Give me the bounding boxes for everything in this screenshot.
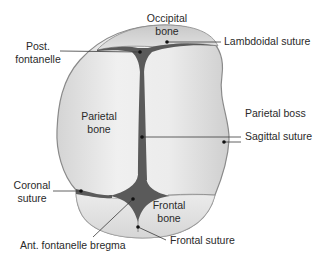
frontal-suture-label: Frontal suture — [170, 234, 235, 247]
parietal-bone-label: Parietal bone — [76, 110, 122, 136]
lambdoidal-suture-label: Lambdoidal suture — [224, 35, 310, 48]
frontal-bone-label-line1: Frontal — [148, 199, 190, 212]
parietal-boss-label: Parietal boss — [245, 107, 306, 120]
occipital-bone-label-line2: bone — [144, 25, 190, 38]
parietal-bone-label-line2: bone — [76, 123, 122, 136]
frontal-bone-label: Frontal bone — [148, 199, 190, 225]
ant-fontanelle-label: Ant. fontanelle bregma — [20, 239, 126, 252]
dot-lambdoidal — [165, 40, 169, 44]
dot-parietal-boss — [222, 140, 226, 144]
dot-coronal — [79, 189, 83, 193]
dot-sagittal — [140, 135, 144, 139]
dot-post-fontanelle — [138, 50, 142, 54]
dot-frontal-suture — [136, 225, 140, 229]
frontal-bone-label-line2: bone — [148, 212, 190, 225]
coronal-suture-label: Coronal suture — [10, 179, 54, 205]
coronal-suture-label-line2: suture — [10, 192, 54, 205]
post-fontanelle-label: Post. fontanelle — [14, 40, 62, 66]
occipital-bone-label: Occipital bone — [144, 12, 190, 38]
coronal-suture-label-line1: Coronal — [10, 179, 54, 192]
post-fontanelle-label-line2: fontanelle — [14, 53, 62, 66]
occipital-bone-label-line1: Occipital — [144, 12, 190, 25]
sagittal-suture-label: Sagittal suture — [245, 130, 312, 143]
post-fontanelle-label-line1: Post. — [14, 40, 62, 53]
dot-ant-fontanelle — [131, 197, 135, 201]
parietal-bone-label-line1: Parietal — [76, 110, 122, 123]
